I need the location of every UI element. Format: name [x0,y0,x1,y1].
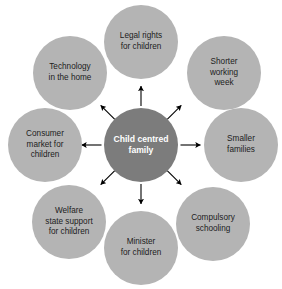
arrow-to-compulsory-schooling [167,171,181,185]
node-label: Technology in the home [45,62,96,84]
node-label: Smaller families [223,134,259,156]
node-welfare-state-support-for-children[interactable]: Welfare state support for children [32,185,106,259]
node-label: Consumer market for children [22,129,68,161]
node-consumer-market-for-children[interactable]: Consumer market for children [8,108,82,182]
arrow-to-technology-in-the-home [101,105,115,119]
node-label: Welfare state support for children [41,206,96,238]
node-label: Shorter working week [206,57,242,89]
node-technology-in-the-home[interactable]: Technology in the home [33,36,107,110]
hub-label: Child centred family [110,134,173,156]
node-shorter-working-week[interactable]: Shorter working week [187,36,261,110]
node-smaller-families[interactable]: Smaller families [204,108,278,182]
node-label: Compulsory schooling [187,213,239,235]
hub-child-centred-family[interactable]: Child centred family [104,108,178,182]
node-label: Legal rights for children [116,31,166,53]
node-legal-rights-for-children[interactable]: Legal rights for children [104,5,178,79]
node-compulsory-schooling[interactable]: Compulsory schooling [176,187,250,261]
radial-diagram: Legal rights for children Shorter workin… [0,0,282,289]
node-label: Minister for children [117,237,166,259]
arrow-to-shorter-working-week [167,105,181,119]
arrow-to-welfare-state-support-for-children [101,171,115,185]
node-minister-for-children[interactable]: Minister for children [104,211,178,285]
